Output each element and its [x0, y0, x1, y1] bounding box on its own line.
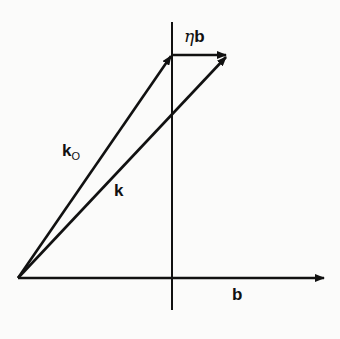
eta-b-vector-text: b	[194, 27, 204, 46]
k-text: k	[114, 181, 123, 200]
b-text: b	[232, 285, 242, 304]
k-label: k	[114, 182, 123, 199]
eta-symbol: η	[184, 26, 194, 46]
eta-b-label: ηb	[184, 28, 205, 45]
vector-diagram	[0, 0, 340, 339]
b-label: b	[232, 286, 242, 303]
k0-vector-arrow	[18, 56, 171, 278]
k0-label: kO	[62, 142, 80, 162]
k0-subscript: O	[71, 150, 80, 162]
k-vector-arrow	[18, 57, 226, 278]
